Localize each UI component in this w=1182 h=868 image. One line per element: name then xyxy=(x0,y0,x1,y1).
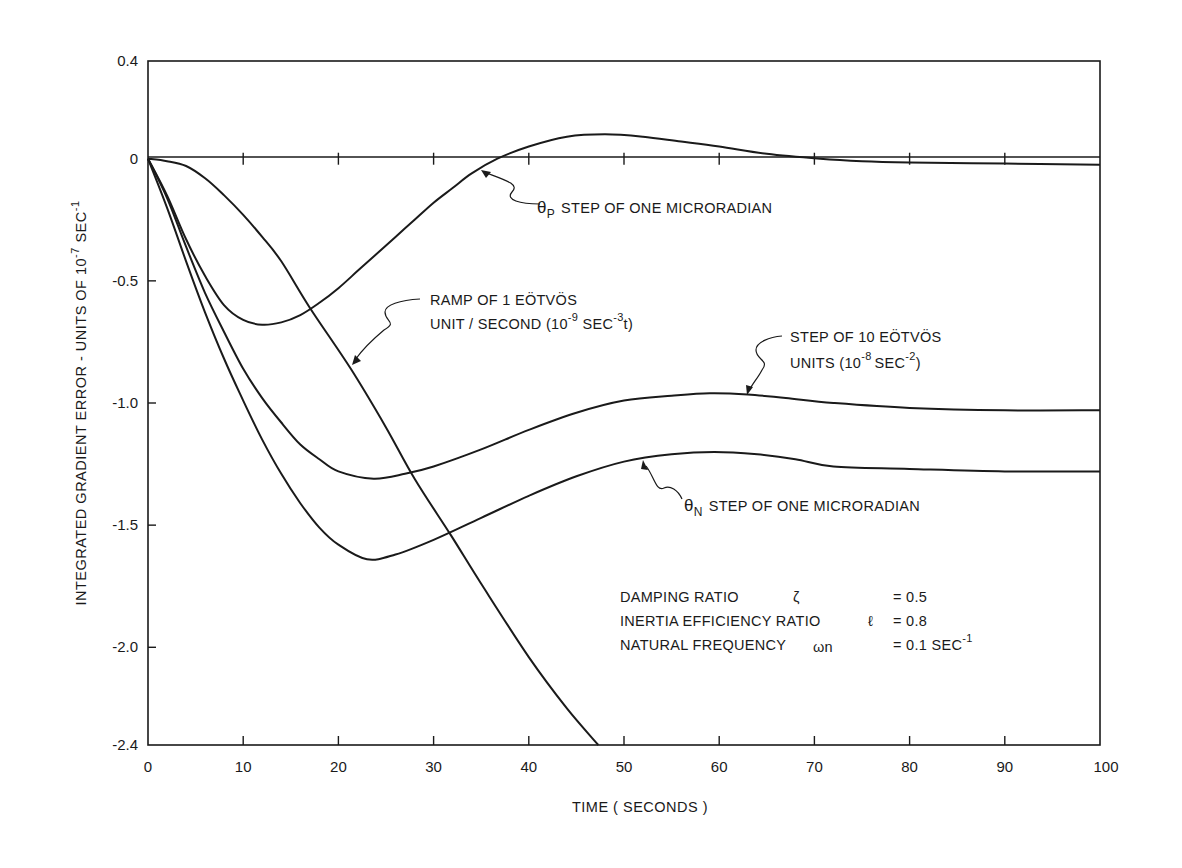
x-tick-label: 0 xyxy=(144,758,152,775)
series-curve-1 xyxy=(148,159,598,745)
axis-ticks xyxy=(148,153,1005,745)
annotation-theta-p: θPSTEP OF ONE MICRORADIAN xyxy=(481,170,772,221)
x-tick-label: 90 xyxy=(996,758,1013,775)
param-inertia-value: = 0.8 xyxy=(893,613,927,629)
theta-p-label: STEP OF ONE MICRORADIAN xyxy=(561,200,772,216)
series-curve-3 xyxy=(148,159,1100,560)
y-axis-title-unit: SEC xyxy=(73,211,89,247)
x-tick-label: 50 xyxy=(616,758,633,775)
ramp-label-line2a: UNIT / SECOND (10 xyxy=(430,316,568,332)
svg-text:= 0.1 SEC-1: = 0.1 SEC-1 xyxy=(893,632,973,653)
param-frequency-value: = 0.1 SEC xyxy=(893,637,962,653)
y-tick-labels: 0.40-0.5-1.0-1.5-2.0-2.4 xyxy=(112,52,138,753)
y-axis-title-main: INTEGRATED GRADIENT ERROR - UNITS OF 10 xyxy=(73,258,89,606)
y-tick-label: -2.0 xyxy=(112,638,138,655)
param-inertia-symbol: ℓ xyxy=(868,613,873,629)
x-tick-label: 40 xyxy=(520,758,537,775)
y-tick-label: 0.4 xyxy=(117,52,138,69)
y-axis-title-exp1: -7 xyxy=(69,247,81,258)
param-damping-symbol: ζ xyxy=(793,589,800,605)
ramp-label-line2b: SEC xyxy=(578,316,613,332)
x-axis-title: TIME ( SECONDS ) xyxy=(572,799,708,815)
ramp-leader-arrow xyxy=(355,299,420,360)
chart: 0102030405060708090100 0.40-0.5-1.0-1.5-… xyxy=(0,0,1182,868)
svg-text:θNSTEP OF ONE MICRORADIAN: θNSTEP OF ONE MICRORADIAN xyxy=(684,496,920,519)
theta-symbol: θ xyxy=(684,496,694,515)
curves xyxy=(148,134,1100,745)
y-tick-label: -1.5 xyxy=(112,516,138,533)
param-damping-value: = 0.5 xyxy=(893,589,927,605)
y-axis-title-exp2: -1 xyxy=(69,200,81,211)
x-tick-label: 20 xyxy=(330,758,347,775)
step10-label-line2a: UNITS (10 xyxy=(790,355,861,371)
y-axis-title: INTEGRATED GRADIENT ERROR - UNITS OF 10-… xyxy=(69,200,89,605)
x-tick-label: 60 xyxy=(711,758,728,775)
step10-label-line1: STEP OF 10 EÖTVÖS xyxy=(790,328,942,345)
step10-leader-arrow xyxy=(749,336,782,391)
theta-p-leader-arrow xyxy=(484,172,540,204)
theta-subscript: P xyxy=(547,207,555,221)
param-frequency-symbol: ωn xyxy=(813,639,833,655)
annotation-step-10-eotvos: STEP OF 10 EÖTVÖS UNITS (10-8SEC-2) xyxy=(746,328,942,395)
x-tick-label: 100 xyxy=(1093,758,1118,775)
param-damping-label: DAMPING RATIO xyxy=(620,589,739,605)
annotation-ramp: RAMP OF 1 EÖTVÖS UNIT / SECOND (10-9 SEC… xyxy=(352,291,633,365)
theta-subscript: N xyxy=(694,505,703,519)
step10-exp1: -8 xyxy=(861,350,871,362)
x-tick-label: 10 xyxy=(235,758,252,775)
step10-label-line2c: ) xyxy=(916,355,921,371)
svg-text:UNIT / SECOND (10-9 SEC-3t): UNIT / SECOND (10-9 SEC-3t) xyxy=(430,311,633,332)
y-tick-label: -1.0 xyxy=(112,394,138,411)
theta-n-leader-arrow xyxy=(646,466,682,499)
theta-n-label: STEP OF ONE MICRORADIAN xyxy=(709,498,920,514)
ramp-exp2: -3 xyxy=(613,311,623,323)
step10-label-line2b: SEC xyxy=(875,355,906,371)
y-tick-label: 0 xyxy=(130,150,138,167)
theta-symbol: θ xyxy=(537,198,547,217)
arrowhead-icon xyxy=(641,460,648,470)
param-frequency-label: NATURAL FREQUENCY xyxy=(620,637,786,653)
parameters-block: DAMPING RATIO ζ = 0.5 INERTIA EFFICIENCY… xyxy=(620,589,973,655)
x-tick-label: 80 xyxy=(901,758,918,775)
ramp-exp1: -9 xyxy=(568,311,578,323)
x-tick-labels: 0102030405060708090100 xyxy=(144,758,1119,775)
param-inertia-label: INERTIA EFFICIENCY RATIO xyxy=(620,613,821,629)
ramp-label-line2c: t) xyxy=(624,316,633,332)
y-tick-label: -0.5 xyxy=(112,272,138,289)
step10-exp2: -2 xyxy=(905,350,915,362)
x-tick-label: 30 xyxy=(425,758,442,775)
y-tick-label: -2.4 xyxy=(112,736,138,753)
x-tick-label: 70 xyxy=(806,758,823,775)
svg-text:θPSTEP OF ONE MICRORADIAN: θPSTEP OF ONE MICRORADIAN xyxy=(537,198,772,221)
svg-text:UNITS (10-8SEC-2): UNITS (10-8SEC-2) xyxy=(790,350,921,371)
ramp-label-line1: RAMP OF 1 EÖTVÖS xyxy=(430,291,577,308)
param-frequency-exp: -1 xyxy=(962,632,972,644)
arrowhead-icon xyxy=(352,355,361,365)
